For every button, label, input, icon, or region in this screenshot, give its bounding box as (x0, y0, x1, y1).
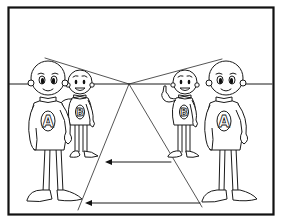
letter-b-left: B (76, 107, 84, 118)
character-right-a: A (202, 61, 257, 202)
perspective-panel: Perspective drawing lesson panel: two pa… (0, 0, 281, 224)
letter-a-right: A (218, 113, 230, 131)
arrow-upper (105, 159, 171, 165)
panel-illustration: B A (0, 0, 281, 224)
letter-a-left: A (42, 113, 54, 131)
letter-b-right: B (180, 107, 188, 118)
arrow-lower (85, 200, 200, 206)
character-right-b: B (162, 70, 199, 157)
